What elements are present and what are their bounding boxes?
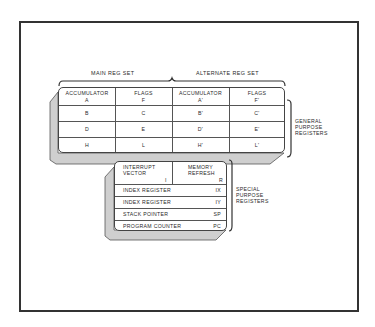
top-brace xyxy=(59,78,285,86)
register-cell: L' xyxy=(229,142,285,149)
register-cell: B xyxy=(59,110,115,117)
interrupt-vector-cell: INTERRUPT VECTOR xyxy=(123,164,155,176)
general-register-table: ACCUMULATORA FLAGSF ACCUMULATORA' FLAGSF… xyxy=(58,87,285,153)
memory-refresh-reg: R xyxy=(219,177,223,183)
interrupt-vector-reg: I xyxy=(165,177,167,183)
header-cell: ACCUMULATORA xyxy=(59,90,115,103)
memory-refresh-cell: MEMORY REFRESH xyxy=(188,164,215,176)
alternate-reg-set-label: ALTERNATE REG SET xyxy=(196,70,259,76)
register-cell: L xyxy=(115,142,172,149)
header-cell: ACCUMULATORA' xyxy=(172,90,229,103)
register-cell: H xyxy=(59,142,115,149)
register-cell: B' xyxy=(172,110,229,117)
register-cell: D' xyxy=(172,126,229,133)
general-purpose-label: GENERAL PURPOSE REGISTERS xyxy=(295,118,328,136)
register-cell: C' xyxy=(229,110,285,117)
special-purpose-label: SPECIAL PURPOSE REGISTERS xyxy=(236,186,269,204)
header-cell: FLAGSF xyxy=(115,90,172,103)
register-cell: E' xyxy=(229,126,285,133)
general-bracket xyxy=(287,100,291,157)
header-cell: FLAGSF' xyxy=(229,90,285,103)
special-bracket xyxy=(229,160,232,231)
register-cell: H' xyxy=(172,142,229,149)
register-cell: C xyxy=(115,110,172,117)
register-cell: D xyxy=(59,126,115,133)
register-cell: E xyxy=(115,126,172,133)
special-register-table: INTERRUPT VECTOR I MEMORY REFRESH R INDE… xyxy=(114,161,227,231)
main-reg-set-label: MAIN REG SET xyxy=(91,70,134,76)
